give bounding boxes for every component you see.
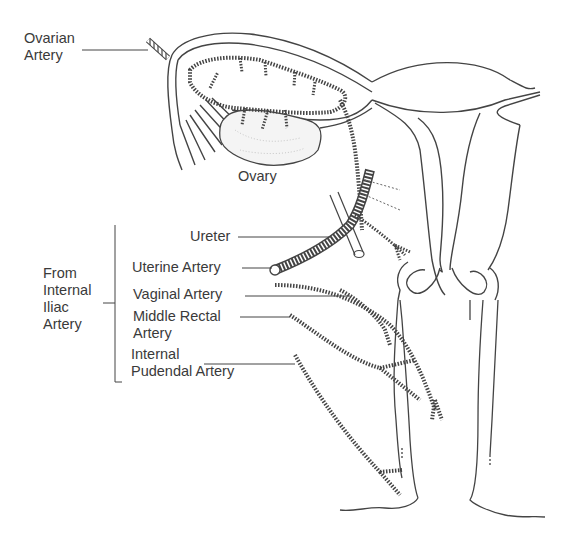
uterine-artery (270, 170, 410, 275)
vagina-outline (340, 300, 545, 517)
label-ovary: Ovary (238, 168, 277, 185)
internal-pudendal-artery (295, 355, 402, 495)
label-internal-pudendal-artery: Internal Pudendal Artery (131, 346, 234, 380)
label-middle-rectal-artery: Middle Rectal Artery (133, 308, 221, 342)
label-uterine-artery: Uterine Artery (132, 259, 221, 276)
middle-rectal-artery (290, 315, 420, 400)
anatomy-diagram: Ovarian Artery Ovary Ureter Uterine Arte… (0, 0, 588, 543)
label-ovarian-artery: Ovarian Artery (24, 30, 75, 64)
uterus-outline (372, 63, 540, 300)
label-ureter: Ureter (190, 228, 230, 245)
label-from-internal-iliac-artery: From Internal Iliac Artery (43, 265, 91, 333)
group-bracket (115, 225, 122, 382)
ovary (220, 110, 321, 165)
label-vaginal-artery: Vaginal Artery (133, 286, 222, 303)
